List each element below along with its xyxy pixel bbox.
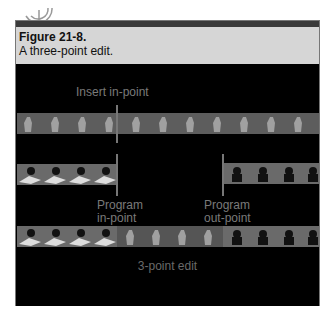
group-figure-frames-icon <box>223 226 319 247</box>
program-in-point-label: Program in-point <box>97 199 143 225</box>
insert-in-point-marker <box>116 105 118 143</box>
figure-number: Figure 21-8. <box>19 30 319 44</box>
insert-in-point-label: Insert in-point <box>76 86 149 99</box>
standing-figure-frames-icon <box>117 226 223 247</box>
program-right-segment <box>223 163 319 184</box>
source-clip-strip <box>17 113 319 134</box>
group-figure-frames-icon <box>223 163 319 184</box>
program-out-point-label: Program out-point <box>204 199 251 225</box>
three-point-edit-label: 3-point edit <box>16 260 319 273</box>
program-in-point-marker <box>116 154 118 196</box>
seated-figure-frames-icon <box>17 164 117 185</box>
result-left-segment <box>17 226 117 247</box>
figure-box: Figure 21-8. A three-point edit. Insert … <box>15 20 320 306</box>
chapter-logo-icon <box>22 0 56 22</box>
standing-figure-frames-icon <box>17 113 319 134</box>
program-left-segment <box>17 164 117 185</box>
figure-description: A three-point edit. <box>19 44 319 58</box>
seated-figure-frames-icon <box>17 226 117 247</box>
edit-diagram: Insert in-point <box>16 64 319 306</box>
result-right-segment <box>223 226 319 247</box>
result-inserted-segment <box>117 226 223 247</box>
program-out-point-marker <box>222 154 224 196</box>
figure-caption: Figure 21-8. A three-point edit. <box>16 27 319 64</box>
